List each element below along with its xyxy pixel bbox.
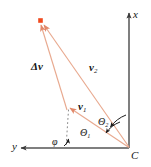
axis-group xyxy=(21,13,129,148)
vector-tip-marker xyxy=(38,18,43,23)
angle-theta2-label: Θ2 xyxy=(98,117,108,128)
origin-label-c: C xyxy=(131,150,138,161)
theta1-arc xyxy=(111,115,127,127)
vector-v1-label: v1 xyxy=(78,101,86,114)
vector-v2-label-subscript: 2 xyxy=(94,67,97,74)
angle-theta1-label: Θ1 xyxy=(80,128,90,139)
angle-theta1-label-subscript: 1 xyxy=(87,132,90,139)
vector-diagram-figure: x y C Δv v2 v1 Θ2 Θ1 φ xyxy=(0,0,151,167)
y-axis-label: y xyxy=(12,141,17,152)
delta-v-label: Δv xyxy=(31,61,43,72)
vector-v1-label-subscript: 1 xyxy=(83,106,86,113)
x-axis-label: x xyxy=(133,9,138,20)
angle-phi-label: φ xyxy=(52,137,58,147)
vector-delta-v-line xyxy=(41,25,67,110)
vector-v1-line xyxy=(70,108,129,148)
angle-arc-group xyxy=(64,115,126,146)
vector-v2-label: v2 xyxy=(89,62,97,75)
diagram-canvas xyxy=(0,0,151,167)
angle-theta2-label-subscript: 2 xyxy=(105,121,108,128)
